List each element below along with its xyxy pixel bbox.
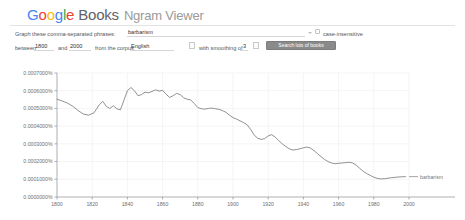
x-axis-tick-label: 1940 xyxy=(298,201,310,207)
header-divider xyxy=(10,25,455,26)
app-logo: Google BooksNgram Viewer xyxy=(27,7,465,23)
x-axis-tick-label: 1880 xyxy=(192,201,204,207)
logo-letter-g1: G xyxy=(27,6,38,23)
x-axis-tick-label: 2000 xyxy=(403,201,415,207)
case-insensitive-checkbox[interactable] xyxy=(315,29,320,34)
app-header: Google BooksNgram Viewer xyxy=(0,0,465,27)
y-axis-tick-label: 0.0006000% xyxy=(23,88,53,94)
y-axis-tick-label: 0.0003000% xyxy=(23,141,53,147)
logo-letter-e: e xyxy=(66,6,74,23)
phrases-input[interactable] xyxy=(127,28,305,37)
y-axis-tick-label: 0.0005000% xyxy=(23,105,53,111)
start-year-input[interactable] xyxy=(34,42,54,51)
y-axis-tick-label: 0.0007000% xyxy=(23,70,53,76)
smoothing-dropdown-icon[interactable] xyxy=(253,42,259,49)
and-label: and xyxy=(58,44,67,53)
chart-x-axis: 1800182018401860188019001920194019601980… xyxy=(51,197,415,207)
between-label: between xyxy=(15,44,36,53)
x-axis-tick-label: 1860 xyxy=(157,201,169,207)
chart-svg: 0.0000000%0.0001000%0.0002000%0.0003000%… xyxy=(0,62,465,220)
smoothing-label: with smoothing of xyxy=(199,44,243,53)
query-row-options: between and from the corpus with smoothi… xyxy=(0,42,465,54)
search-button[interactable]: Search lots of books xyxy=(266,41,336,50)
x-axis-tick-label: 1820 xyxy=(86,201,98,207)
x-axis-tick-label: 1960 xyxy=(333,201,345,207)
series-label: barbarism xyxy=(420,174,443,180)
product-name: Ngram Viewer xyxy=(124,8,204,23)
logo-books-word: Books xyxy=(78,6,119,23)
chart-y-axis: 0.0000000%0.0001000%0.0002000%0.0003000%… xyxy=(23,70,57,200)
corpus-dropdown-icon[interactable] xyxy=(189,42,195,49)
y-axis-tick-label: 0.0001000% xyxy=(23,176,53,182)
y-axis-tick-label: 0.0002000% xyxy=(23,158,53,164)
corpus-label: from the corpus xyxy=(95,44,134,53)
logo-letter-o2: o xyxy=(47,6,55,23)
x-axis-tick-label: 1840 xyxy=(122,201,134,207)
ngram-chart: 0.0000000%0.0001000%0.0002000%0.0003000%… xyxy=(0,62,465,220)
case-insensitive-label: case-insensitive xyxy=(323,30,363,39)
chart-gridlines xyxy=(57,73,455,197)
chart-series-labels: barbarism xyxy=(420,174,443,180)
end-year-input[interactable] xyxy=(69,42,91,51)
phrases-label: Graph these comma-separated phrases: xyxy=(15,30,115,39)
y-axis-tick-label: 0.0000000% xyxy=(23,194,53,200)
logo-letter-o1: o xyxy=(38,6,46,23)
x-axis-tick-label: 1980 xyxy=(368,201,380,207)
series-line xyxy=(57,88,405,179)
x-axis-tick-label: 1920 xyxy=(262,201,274,207)
y-axis-tick-label: 0.0004000% xyxy=(23,123,53,129)
smoothing-input[interactable] xyxy=(240,42,248,51)
x-axis-tick-label: 1900 xyxy=(227,201,239,207)
x-axis-tick-label: 1800 xyxy=(51,201,63,207)
corpus-select[interactable] xyxy=(130,42,174,51)
chevron-down-icon[interactable] xyxy=(308,32,312,34)
chart-series xyxy=(57,88,418,179)
logo-letter-g2: g xyxy=(55,6,63,23)
query-row-phrases: Graph these comma-separated phrases: cas… xyxy=(0,28,465,40)
